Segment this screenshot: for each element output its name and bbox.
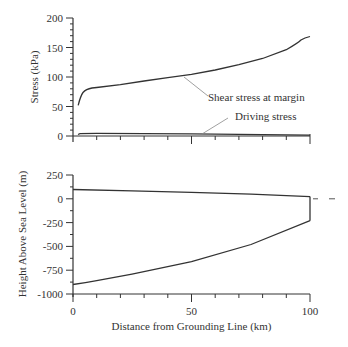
height-y-tick-labels: 250 0 -250 -500 -750 -1000 (37, 169, 63, 300)
tick-label: 250 (47, 169, 64, 181)
stress-y-tick-labels: 200 150 100 50 0 (47, 12, 64, 142)
tick-label: 50 (52, 101, 64, 113)
tick-label: -750 (43, 264, 64, 276)
shear-stress-annotation: Shear stress at margin (208, 91, 305, 103)
stress-y-axis-title: Stress (kPa) (28, 50, 41, 103)
tick-label: -250 (43, 217, 64, 229)
driving-stress-line (78, 133, 310, 135)
height-x-tick-labels: 0 50 100 (70, 305, 319, 317)
tick-label: 200 (47, 12, 64, 24)
tick-label: 0 (70, 305, 76, 317)
tick-label: 50 (186, 305, 198, 317)
stress-panel: 200 150 100 50 0 Stress (kPa) Shear st (28, 12, 310, 144)
tick-label: 150 (47, 42, 64, 54)
height-y-ticks (66, 175, 73, 294)
tick-label: 0 (58, 130, 64, 142)
driving-leader-line (202, 118, 228, 134)
tick-label: -500 (43, 240, 64, 252)
shear-leader-line (184, 77, 208, 96)
tick-label: 100 (302, 305, 319, 317)
x-axis-title: Distance from Grounding Line (km) (111, 320, 271, 333)
height-panel: 250 0 -250 -500 -750 -1000 Height Above … (16, 169, 335, 333)
tick-label: 0 (58, 193, 64, 205)
stress-y-ticks (66, 18, 73, 136)
driving-stress-annotation: Driving stress (235, 110, 296, 122)
ice-surface-line (73, 190, 310, 197)
height-y-axis-title: Height Above Sea Level (m) (16, 170, 29, 297)
ice-base-line (73, 221, 310, 285)
tick-label: -1000 (37, 288, 63, 300)
tick-label: 100 (47, 71, 64, 83)
height-x-ticks (73, 294, 310, 302)
chart-canvas: 200 150 100 50 0 Stress (kPa) Shear st (0, 0, 348, 347)
